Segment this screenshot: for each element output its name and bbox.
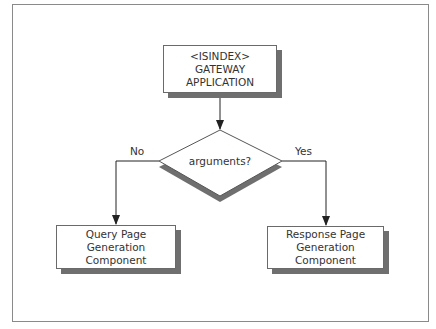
no-edge-label: No [130, 145, 144, 157]
start-line-3: APPLICATION [186, 76, 254, 89]
decision-label: arguments? [180, 155, 260, 167]
response-line-2: Generation Component [268, 241, 383, 267]
arrowhead-icon [322, 216, 330, 226]
query-line-1: Query Page [57, 228, 175, 241]
gateway-application-box: <ISINDEX> GATEWAY APPLICATION [163, 45, 277, 93]
query-line-2: Generation Component [57, 241, 175, 267]
arrow-no-branch [116, 161, 159, 224]
response-line-1: Response Page [268, 228, 383, 241]
yes-edge-label: Yes [295, 145, 312, 157]
start-line-1: <ISINDEX> [186, 50, 254, 63]
start-line-2: GATEWAY [186, 63, 254, 76]
arrow-yes-branch [282, 161, 326, 225]
query-page-box: Query Page Generation Component [56, 225, 176, 269]
arrowhead-icon [112, 215, 120, 225]
arrowhead-icon [216, 120, 224, 130]
response-page-box: Response Page Generation Component [267, 226, 384, 269]
